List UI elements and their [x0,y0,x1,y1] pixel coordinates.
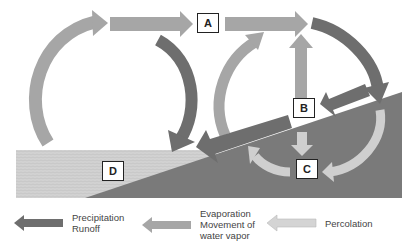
label-c: C [296,159,318,179]
label-d: D [102,161,124,181]
vapor-arrow-from-b-head [289,34,313,48]
vapor-arrow-from-b [295,48,307,98]
precipitation-arc-center [158,40,192,140]
label-b: B [293,98,315,118]
light-arrow-icon [267,214,317,232]
evaporation-arc-inner [219,42,255,135]
vapor-arrow-to-a-head [180,11,193,37]
legend-text-line: water vapor [200,230,255,241]
vapor-arrow-from-a-head [295,11,308,37]
dark-arrow-icon [14,214,64,232]
legend-text-line: Movement of [200,219,255,230]
legend-text-line: Precipitation [72,212,124,223]
medium-arrow-icon [142,216,192,234]
legend-text-line: Runoff [72,223,124,234]
vapor-arrow-from-a [225,17,295,31]
legend-text-line: Percolation [325,218,373,229]
precipitation-arc-right [312,23,378,90]
evaporation-arc-left [35,22,95,143]
evaporation-arc-left-head [92,10,108,36]
legend-text-line: Evaporation [200,208,255,219]
legend-item-precipitation-runoff: Precipitation Runoff [14,212,124,234]
legend: Precipitation Runoff Evaporation Movemen… [0,208,417,248]
label-a: A [197,13,219,33]
legend-item-percolation: Percolation [267,214,373,232]
land-slope [85,92,402,198]
percolation-arrow-down [297,132,307,146]
vapor-arrow-to-a [110,17,180,31]
legend-item-evaporation-vapor: Evaporation Movement of water vapor [142,208,255,241]
